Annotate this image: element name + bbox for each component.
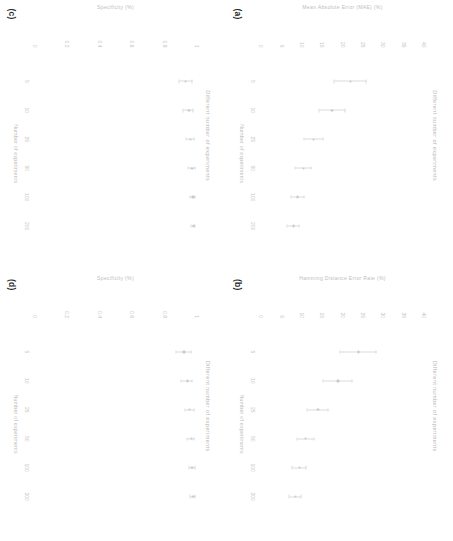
- y-tick-b-3: 25: [359, 312, 365, 318]
- y-tick-a-8: 0: [258, 44, 264, 47]
- error-bar-cap: [294, 166, 295, 169]
- data-point: [184, 80, 186, 82]
- error-bar-cap: [193, 437, 194, 440]
- error-bar-cap: [318, 108, 319, 111]
- y-tick-d-2: 0.6: [129, 311, 135, 318]
- y-tick-c-2: 0.6: [129, 40, 135, 47]
- x-tick-b-4: 100: [250, 463, 256, 471]
- data-point: [298, 466, 300, 468]
- x-tick-a-1: 10: [250, 107, 256, 113]
- y-tick-d-0: 1: [194, 315, 200, 318]
- panel-c: (c) Different number of experiments Spec…: [0, 0, 227, 271]
- y-tick-d-3: 0.4: [96, 311, 102, 318]
- y-tick-b-7: 5: [278, 315, 284, 318]
- x-tick-c-4: 100: [23, 192, 29, 200]
- plot-area-d: Specificity (%) Number of experiments 10…: [34, 323, 197, 526]
- error-bar-cap: [339, 350, 340, 353]
- y-tick-b-8: 0: [258, 315, 264, 318]
- panel-label-c: (c): [6, 8, 16, 19]
- x-axis-label-c: Number of experiments: [12, 52, 18, 255]
- error-bar-cap: [180, 379, 181, 382]
- x-axis-label-b: Number of experiments: [239, 323, 245, 526]
- data-point: [349, 80, 351, 82]
- error-bar-cap: [288, 494, 289, 497]
- y-tick-c-1: 0.8: [161, 40, 167, 47]
- x-tick-d-3: 50: [23, 435, 29, 441]
- y-tick-b-6: 10: [298, 312, 304, 318]
- x-tick-b-3: 50: [250, 435, 256, 441]
- figure-canvas: (a) Different number of experiments Mean…: [0, 0, 453, 541]
- panel-title-d: Different number of experiments: [205, 271, 211, 541]
- data-point: [316, 408, 318, 410]
- error-bar-cap: [178, 79, 179, 82]
- error-bar-cap: [194, 465, 195, 468]
- x-tick-a-2: 25: [250, 136, 256, 142]
- data-point: [188, 408, 190, 410]
- data-point: [357, 350, 359, 352]
- data-point: [186, 379, 188, 381]
- error-bar-cap: [300, 494, 301, 497]
- error-bar-cap: [175, 350, 176, 353]
- y-tick-a-3: 25: [359, 41, 365, 47]
- figure-page: { "figure": { "rotation_deg": 90, "panel…: [0, 0, 453, 541]
- data-point: [189, 138, 191, 140]
- y-tick-c-0: 1: [194, 44, 200, 47]
- x-tick-a-5: 200: [250, 221, 256, 229]
- error-bar-cap: [375, 350, 376, 353]
- y-tick-b-0: 40: [420, 312, 426, 318]
- y-tick-a-1: 35: [400, 41, 406, 47]
- error-bar-cap: [303, 137, 304, 140]
- data-point: [304, 437, 306, 439]
- y-tick-b-4: 20: [339, 312, 345, 318]
- error-bar-cap: [183, 108, 184, 111]
- data-point: [191, 495, 193, 497]
- error-bar-cap: [305, 465, 306, 468]
- data-point: [187, 109, 189, 111]
- x-tick-b-5: 200: [250, 492, 256, 500]
- y-tick-a-7: 5: [278, 44, 284, 47]
- panel-label-d: (d): [6, 279, 16, 290]
- y-tick-d-5: 0: [31, 315, 37, 318]
- x-tick-c-3: 50: [23, 165, 29, 171]
- x-tick-d-5: 200: [23, 492, 29, 500]
- data-point: [190, 466, 192, 468]
- y-axis-label-b: Hamming Distance Error Rate (%): [278, 274, 406, 280]
- x-tick-c-1: 10: [23, 107, 29, 113]
- error-bar-cap: [313, 437, 314, 440]
- error-bar-cap: [322, 379, 323, 382]
- x-tick-d-1: 10: [23, 378, 29, 384]
- x-tick-a-4: 100: [250, 192, 256, 200]
- y-tick-d-1: 0.8: [161, 311, 167, 318]
- y-tick-a-5: 15: [318, 41, 324, 47]
- data-point: [312, 138, 314, 140]
- error-bar-cap: [327, 408, 328, 411]
- error-bar-cap: [185, 137, 186, 140]
- error-bar-cap: [291, 465, 292, 468]
- plot-area-b: Hamming Distance Error Rate (%) Number o…: [261, 323, 424, 526]
- error-bar-cap: [192, 108, 193, 111]
- x-tick-c-0: 5: [23, 80, 29, 83]
- error-bar-cap: [193, 408, 194, 411]
- data-point: [336, 379, 338, 381]
- error-bar-cap: [190, 350, 191, 353]
- y-tick-a-4: 20: [339, 41, 345, 47]
- panel-title-b: Different number of experiments: [431, 271, 437, 541]
- error-bar-cap: [303, 195, 304, 198]
- x-tick-d-4: 100: [23, 463, 29, 471]
- data-point: [292, 224, 294, 226]
- x-tick-a-0: 5: [250, 80, 256, 83]
- x-tick-a-3: 50: [250, 165, 256, 171]
- data-point: [296, 195, 298, 197]
- panel-title-c: Different number of experiments: [205, 0, 211, 271]
- data-point: [182, 350, 184, 352]
- error-bar-cap: [333, 79, 334, 82]
- panel-title-a: Different number of experiments: [431, 0, 437, 271]
- error-bar-cap: [188, 465, 189, 468]
- panel-b: (b) Different number of experiments Hamm…: [227, 271, 453, 541]
- x-tick-b-0: 5: [250, 350, 256, 353]
- x-tick-c-2: 25: [23, 136, 29, 142]
- error-bar-cap: [191, 379, 192, 382]
- x-tick-d-0: 5: [23, 350, 29, 353]
- y-tick-b-1: 35: [400, 312, 406, 318]
- error-bar-cap: [298, 224, 299, 227]
